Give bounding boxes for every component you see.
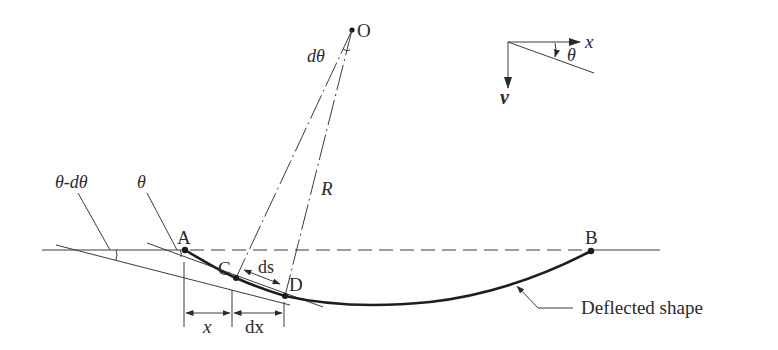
theta-angle-arc-arrow [555,43,556,57]
x-label: x [202,316,212,337]
deflected-shape-label: Deflected shape [581,297,703,318]
callout-leader-diagonal [517,286,538,308]
point-a-label: A [177,227,191,248]
deflected-shape-curve [185,250,591,305]
point-c-dot [233,275,239,281]
slope-line [508,42,594,73]
axes-theta-label: θ [567,45,576,65]
point-o-label: O [357,20,371,41]
radius-label: R [320,178,333,199]
point-d-label: D [289,274,303,295]
ds-label-text: ds [258,257,274,277]
dx-label-text: dx [245,316,265,337]
theta-minus-dtheta-leader [78,193,110,250]
curvature-construction: O dθ R [236,20,371,296]
theta-label: θ [137,172,146,192]
theta-arc [180,250,181,257]
v-axis-label: v [500,86,510,108]
point-d-dot [282,293,288,299]
deflected-curve: A C D B [177,227,598,305]
tangent-at-c [56,245,290,305]
x-axis-label: x [584,31,594,52]
radius-line-to-d [285,30,352,296]
radius-line-to-c [236,30,352,278]
theta-minus-dtheta-arc [116,250,117,260]
point-b-label: B [585,227,598,248]
ds-label: ds [258,257,274,277]
d-theta-label: dθ [307,46,325,66]
deflected-shape-callout: Deflected shape [517,286,703,318]
point-b-dot [588,248,594,254]
theta-minus-dtheta-label: θ-dθ [55,172,88,192]
coordinate-axes: x v θ [500,31,594,108]
point-c-label: C [218,258,231,279]
beam-deflection-diagram: x v θ O dθ R θ-dθ θ A C [0,0,778,350]
theta-leader [147,193,177,250]
dx-label: dx [245,316,265,337]
